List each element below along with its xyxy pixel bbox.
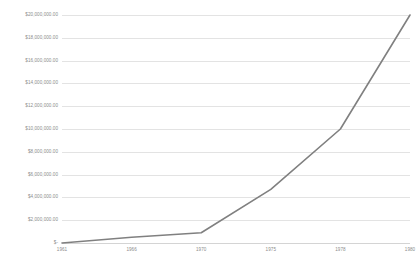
x-axis-tick-label: 1978 — [335, 248, 345, 253]
y-axis-tick-label: $20,000,000.00 — [2, 13, 58, 18]
data-series-line — [62, 15, 410, 243]
plot-area — [62, 15, 410, 243]
y-axis-tick-label: $2,000,000.00 — [2, 218, 58, 223]
y-axis-tick-label: $8,000,000.00 — [2, 150, 58, 155]
y-axis-tick-label: $18,000,000.00 — [2, 36, 58, 41]
line-chart: $-$2,000,000.00$4,000,000.00$6,000,000.0… — [0, 0, 416, 269]
x-axis-tick-label: 1975 — [266, 248, 276, 253]
y-axis-tick-label: $14,000,000.00 — [2, 81, 58, 86]
x-axis-tick-label: 1961 — [57, 248, 67, 253]
y-axis-tick-label: $- — [2, 241, 58, 246]
y-axis-tick-label: $16,000,000.00 — [2, 58, 58, 63]
y-axis-tick-label: $10,000,000.00 — [2, 127, 58, 132]
x-axis-tick-label: 1980 — [405, 248, 415, 253]
y-axis-tick-label: $12,000,000.00 — [2, 104, 58, 109]
x-axis-tick-label: 1966 — [126, 248, 136, 253]
axis-baseline — [62, 243, 410, 244]
y-axis-labels: $-$2,000,000.00$4,000,000.00$6,000,000.0… — [0, 15, 58, 243]
y-axis-tick-label: $6,000,000.00 — [2, 172, 58, 177]
y-axis-tick-label: $4,000,000.00 — [2, 195, 58, 200]
x-axis-tick-label: 1970 — [196, 248, 206, 253]
x-axis-labels: 196119661970197519781980 — [62, 248, 410, 260]
series-line — [62, 15, 410, 243]
